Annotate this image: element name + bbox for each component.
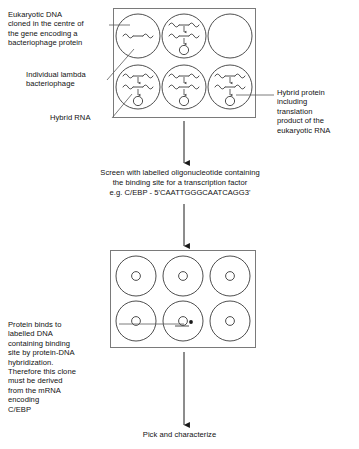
plaque-2 xyxy=(162,14,206,58)
positive-signal-dot xyxy=(189,320,193,324)
figure-root: Eukaryotic DNA cloned in the centre of t… xyxy=(0,0,359,449)
spot-6 xyxy=(210,301,250,341)
label-protein-binds-explanation: Protein binds to labelled DNA containing… xyxy=(8,320,118,414)
plaque-5 xyxy=(162,65,206,109)
label-hybrid-rna: Hybrid RNA xyxy=(50,113,116,122)
label-eukaryotic-dna: Eukaryotic DNA cloned in the centre of t… xyxy=(8,10,112,48)
plaque-plate-svg xyxy=(114,9,255,117)
label-pick-and-characterize: Pick and characterize xyxy=(0,430,359,439)
plaque-3 xyxy=(208,14,252,58)
spot-3 xyxy=(210,256,250,296)
spot-2 xyxy=(163,256,203,296)
plaque-1-dna xyxy=(123,34,153,38)
filter-membrane-svg xyxy=(111,251,255,347)
plaque-1 xyxy=(116,14,160,58)
label-screen-step: Screen with labelled oligonucleotide con… xyxy=(22,168,338,198)
plaque-plate-panel xyxy=(113,8,256,118)
spot-4 xyxy=(116,301,156,341)
label-hybrid-protein: Hybrid protein including translation pro… xyxy=(277,88,357,135)
filter-membrane-panel xyxy=(110,250,256,348)
plaque-2-protein xyxy=(179,45,188,54)
plaque-4-protein xyxy=(133,96,142,105)
spot-5-positive xyxy=(163,301,203,341)
plaque-4 xyxy=(116,65,160,109)
spot-1 xyxy=(116,256,156,296)
plaque-6 xyxy=(208,65,252,109)
plaque-6-protein xyxy=(225,96,234,105)
label-individual-lambda-bacteriophage: Individual lambda bacteriophage xyxy=(26,70,114,89)
plaque-2-rna xyxy=(169,34,199,38)
plaque-5-protein xyxy=(179,96,188,105)
